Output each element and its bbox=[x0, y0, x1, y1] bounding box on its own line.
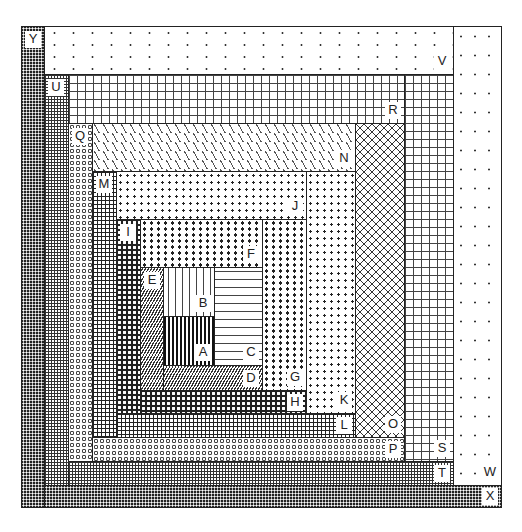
label-b: B bbox=[195, 295, 211, 312]
label-f: F bbox=[243, 246, 259, 263]
piece-i: I bbox=[116, 219, 141, 414]
piece-w: W bbox=[453, 26, 502, 486]
piece-x: X bbox=[44, 485, 502, 508]
label-c: C bbox=[243, 344, 259, 361]
label-y: Y bbox=[25, 31, 41, 48]
piece-n: N bbox=[92, 123, 356, 172]
piece-s: S bbox=[404, 74, 454, 462]
piece-u: U bbox=[44, 74, 69, 486]
piece-j: J bbox=[116, 171, 307, 220]
label-o: O bbox=[385, 416, 401, 433]
piece-b: B bbox=[163, 267, 215, 317]
label-w: W bbox=[482, 464, 498, 481]
piece-d: D bbox=[163, 365, 263, 391]
label-q: Q bbox=[72, 128, 88, 145]
piece-o: O bbox=[355, 123, 405, 438]
piece-q: Q bbox=[68, 123, 93, 462]
piece-y: Y bbox=[21, 26, 45, 508]
label-g: G bbox=[287, 369, 303, 386]
label-m: M bbox=[96, 176, 112, 193]
piece-g: G bbox=[262, 219, 307, 391]
piece-a: A bbox=[163, 316, 215, 366]
piece-e: E bbox=[140, 267, 164, 391]
label-u: U bbox=[48, 79, 64, 96]
piece-f: F bbox=[140, 219, 263, 268]
label-i: I bbox=[120, 224, 136, 241]
label-k: K bbox=[336, 392, 352, 409]
piece-k: K bbox=[306, 171, 356, 414]
label-s: S bbox=[434, 440, 450, 457]
piece-p: P bbox=[92, 437, 405, 462]
label-h: H bbox=[287, 394, 303, 411]
piece-v: V bbox=[44, 26, 454, 75]
log-cabin-quilt-block: Y V W X U R S T Q N O P M J K L bbox=[0, 0, 522, 532]
piece-c: C bbox=[214, 267, 263, 366]
label-r: R bbox=[385, 102, 401, 119]
piece-h: H bbox=[140, 390, 307, 414]
label-n: N bbox=[336, 150, 352, 167]
piece-r: R bbox=[68, 74, 405, 124]
label-x: X bbox=[482, 488, 498, 505]
label-a: A bbox=[195, 344, 211, 361]
label-d: D bbox=[243, 370, 259, 387]
label-p: P bbox=[385, 441, 401, 458]
label-t: T bbox=[434, 465, 450, 482]
piece-t: T bbox=[68, 461, 454, 486]
piece-m: M bbox=[92, 171, 117, 438]
label-j: J bbox=[287, 198, 303, 215]
label-l: L bbox=[336, 417, 352, 434]
label-v: V bbox=[434, 53, 450, 70]
piece-l: L bbox=[116, 413, 356, 438]
label-e: E bbox=[144, 272, 160, 289]
